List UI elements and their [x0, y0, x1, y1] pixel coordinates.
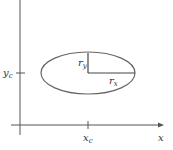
rx-label: rx	[109, 75, 118, 88]
ellipse-diagram: ry rx yc xc x	[0, 0, 173, 150]
yc-label: yc	[2, 67, 13, 80]
ry-label: ry	[78, 57, 88, 70]
xc-label: xc	[83, 132, 93, 145]
x-axis-arrow-icon	[158, 123, 164, 128]
x-axis-label: x	[158, 132, 164, 143]
